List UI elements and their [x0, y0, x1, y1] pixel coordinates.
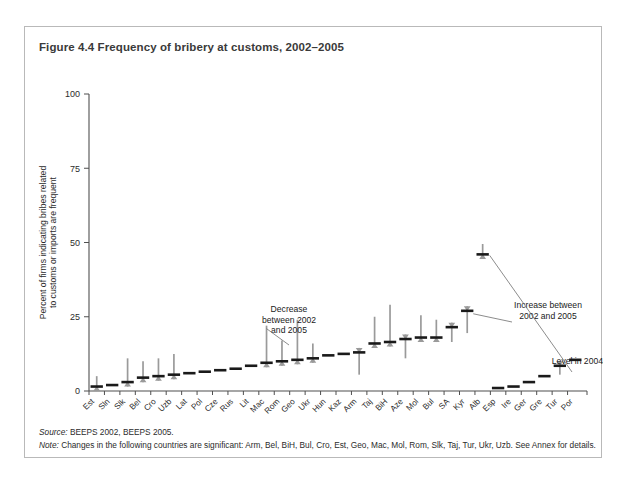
x-tick-label-mac: Mac [249, 397, 266, 414]
x-tick-label-ukr: Ukr [297, 397, 313, 413]
x-tick-label-esp: Esp [481, 397, 498, 414]
note-label: Note: [39, 440, 59, 450]
marker-aze [399, 335, 411, 359]
x-tick-label-kyr: Kyr [452, 397, 467, 412]
y-axis-title: Percent of firms indicating bribes relat… [38, 166, 58, 320]
x-tick-label-arm: Arm [342, 397, 359, 414]
marker-mol [415, 315, 427, 342]
x-tick-label-por: Por [559, 397, 575, 413]
x-tick-label-lat: Lat [174, 397, 189, 412]
data-markers [91, 244, 582, 391]
marker-cro [152, 358, 164, 380]
y-axis-title-line: to customs or imports are frequent [48, 176, 58, 307]
x-tick-label-ger: Ger [512, 397, 528, 413]
marker-arm [353, 348, 365, 375]
x-tick-label-bel: Bel [128, 397, 143, 412]
marker-uzb [168, 354, 180, 379]
note-line: Note: Changes in the following countries… [39, 440, 596, 450]
marker-est [91, 376, 103, 391]
figure-frame: Figure 4.4 Frequency of bribery at custo… [24, 26, 602, 458]
marker-ukr [307, 343, 319, 362]
chart-plot-area: 0255075100 EstSlnSlkBelCroUzbLatPolCzeRu… [25, 27, 603, 459]
y-tick-label: 25 [70, 312, 80, 322]
marker-taj [368, 317, 380, 348]
marker-bel [137, 361, 149, 382]
increase-leader-line [473, 314, 512, 322]
x-tick-label-rus: Rus [218, 397, 235, 414]
x-tick-label-mol: Mol [405, 397, 421, 413]
x-axis: EstSlnSlkBelCroUzbLatPolCzeRusLitMacRomG… [81, 391, 587, 416]
x-tick-label-rom: Rom [263, 397, 282, 416]
increase-annotation: Increase between2002 and 2005 [514, 300, 582, 321]
x-tick-label-geo: Geo [280, 397, 298, 415]
marker-bih [384, 305, 396, 347]
source-text: BEEPS 2002, BEEPS 2005. [68, 427, 174, 437]
marker-kyr [461, 306, 473, 333]
marker-bul [430, 320, 442, 342]
decrease-annotation: Decreasebetween 2002and 2005 [262, 304, 316, 335]
annotation-line: between 2002 [262, 315, 316, 325]
level-annotation: Level in 2004/5 [552, 356, 603, 366]
annotation-line: Decrease [271, 304, 308, 314]
annotation-line: Level in 2004/5 [552, 356, 603, 366]
x-tick-label-cro: Cro [142, 397, 158, 413]
annotation-line: 2002 and 2005 [519, 311, 577, 321]
x-tick-label-uzb: Uzb [157, 397, 174, 414]
x-tick-label-aze: Aze [389, 397, 406, 414]
source-line: Source: BEEPS 2002, BEEPS 2005. [39, 427, 174, 437]
marker-rom [276, 341, 288, 366]
source-label: Source: [39, 427, 68, 437]
marker-alb [476, 244, 488, 259]
x-tick-label-cze: Cze [203, 397, 220, 414]
x-tick-label-gre: Gre [528, 397, 544, 413]
x-tick-label-slk: Slk [113, 396, 128, 411]
x-tick-label-sa: SA [437, 397, 451, 411]
x-tick-label-bul: Bul [421, 397, 436, 412]
x-tick-label-hun: Hun [311, 397, 328, 414]
y-tick-label: 100 [65, 89, 80, 99]
x-tick-label-ire: Ire [500, 397, 513, 410]
marker-slk [121, 358, 133, 386]
y-axis: 0255075100 [65, 89, 89, 396]
x-tick-label-sln: Sln [97, 397, 112, 412]
x-tick-label-alb: Alb [467, 397, 482, 412]
y-axis-title-line: Percent of firms indicating bribes relat… [38, 166, 48, 320]
marker-sa [446, 323, 458, 342]
y-tick-label: 75 [70, 164, 80, 174]
note-text: Changes in the following countries are s… [59, 440, 596, 450]
x-tick-label-pol: Pol [189, 397, 204, 412]
x-tick-label-taj: Taj [360, 397, 374, 411]
x-tick-label-est: Est [81, 397, 96, 412]
x-tick-label-bih: BiH [374, 397, 390, 413]
annotation-line: and 2005 [271, 325, 307, 335]
y-tick-label: 0 [75, 386, 80, 396]
x-tick-label-kaz: Kaz [327, 397, 343, 413]
y-tick-label: 50 [70, 238, 80, 248]
x-tick-label-tur: Tur [544, 397, 559, 412]
